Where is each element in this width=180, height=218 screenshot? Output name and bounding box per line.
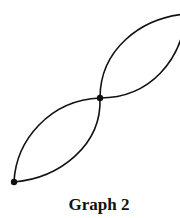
graph-caption: Graph 2 [0, 195, 180, 215]
graph-diagram [0, 0, 180, 218]
vertex-v1 [11, 179, 17, 185]
edge-v2-v3-upper [100, 14, 180, 98]
vertex-v2 [97, 95, 103, 101]
